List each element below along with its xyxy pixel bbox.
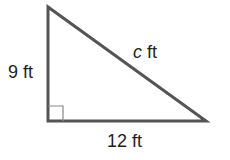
vertical-leg-label: 9 ft [8, 62, 33, 82]
horizontal-leg-label: 12 ft [107, 131, 142, 151]
right-triangle-diagram: 9 ft c ft 12 ft [0, 0, 230, 160]
hypotenuse-label: c ft [133, 42, 157, 62]
triangle-shape [48, 7, 206, 121]
hypotenuse-unit: ft [142, 42, 157, 62]
hypotenuse-variable: c [133, 42, 142, 62]
right-angle-marker [48, 106, 63, 121]
